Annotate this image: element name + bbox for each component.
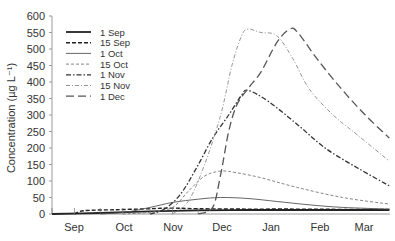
y-tick-label: 450 [27,60,45,72]
x-tick-label: Dec [212,221,232,233]
series-line-15-nov [173,29,390,214]
series-line-1-sep [52,210,389,214]
y-tick-label: 500 [27,43,45,55]
y-tick-label: 150 [27,159,45,171]
x-tick-label: Nov [163,221,183,233]
concentration-line-chart: 050100150200250300350400450500550600SepO… [0,0,395,241]
y-tick-label: 100 [27,175,45,187]
legend-label: 15 Nov [100,80,130,91]
y-tick-label: 350 [27,93,45,105]
x-tick-label: Feb [311,221,330,233]
legend-label: 1 Oct [100,48,123,59]
x-tick-label: Mar [355,221,374,233]
legend-label: 1 Nov [100,69,125,80]
y-tick-label: 550 [27,27,45,39]
legend-label: 1 Dec [100,91,125,102]
chart-canvas: 050100150200250300350400450500550600SepO… [0,0,395,241]
legend: 1 Sep15 Sep1 Oct15 Oct1 Nov15 Nov1 Dec [66,27,130,102]
y-tick-label: 250 [27,126,45,138]
legend-label: 15 Oct [100,59,128,70]
y-tick-label: 300 [27,109,45,121]
legend-label: 1 Sep [100,27,125,38]
y-tick-label: 400 [27,76,45,88]
x-tick-label: Oct [115,221,132,233]
y-tick-label: 600 [27,10,45,22]
legend-label: 15 Sep [100,37,130,48]
y-tick-label: 200 [27,142,45,154]
series-line-1-nov [150,90,389,214]
x-tick-label: Sep [64,221,84,233]
y-tick-label: 50 [33,192,45,204]
y-tick-label: 0 [39,208,45,220]
y-axis-label: Concentration (µg L⁻¹) [5,63,17,173]
x-tick-label: Jan [262,221,280,233]
axes: 050100150200250300350400450500550600SepO… [27,10,390,233]
